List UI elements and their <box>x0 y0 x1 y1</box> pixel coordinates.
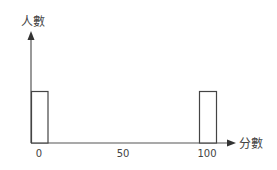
x-tick-0: 0 <box>36 148 42 159</box>
x-tick-100: 100 <box>197 148 216 159</box>
x-tick-50: 50 <box>117 148 130 159</box>
bar-score-100 <box>200 92 217 144</box>
x-axis-label: 分數 <box>239 138 263 150</box>
histogram-chart: 人數 分數 0 50 100 <box>0 0 277 170</box>
y-axis-label: 人數 <box>21 16 45 28</box>
x-axis-arrow-icon <box>227 140 236 147</box>
bar-score-0 <box>32 92 49 144</box>
y-axis-arrow-icon <box>28 31 35 40</box>
